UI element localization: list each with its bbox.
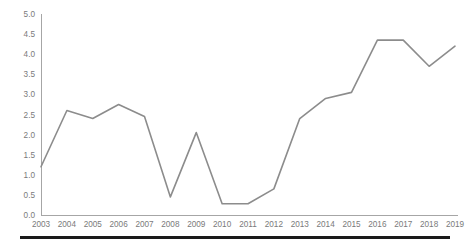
chart-canvas: 0.00.51.01.52.02.53.03.54.04.55.0 200320… [0, 0, 470, 248]
y-axis-tick-label: 0.5 [24, 191, 36, 200]
y-axis-tick-label: 1.0 [24, 171, 36, 180]
plot-area [41, 14, 455, 215]
x-axis-tick-label: 2009 [187, 220, 206, 229]
x-axis-tick-label: 2012 [265, 220, 284, 229]
y-axis-tick-label: 1.5 [24, 151, 36, 160]
x-axis-tick-label: 2019 [446, 220, 465, 229]
x-axis-tick-label: 2006 [110, 220, 129, 229]
x-axis-tick-label: 2016 [368, 220, 387, 229]
x-axis-tick-group: 2003200420052006200720082009201020112012… [32, 220, 465, 229]
y-axis-tick-label: 0.0 [24, 211, 36, 220]
x-axis-tick-label: 2003 [32, 220, 51, 229]
line-chart: 0.00.51.01.52.02.53.03.54.04.55.0 200320… [0, 0, 470, 248]
x-axis-tick-label: 2018 [420, 220, 439, 229]
x-axis-tick-label: 2004 [58, 220, 77, 229]
y-axis-tick-label: 2.5 [24, 111, 36, 120]
x-axis-tick-label: 2015 [342, 220, 361, 229]
y-axis-tick-label: 4.0 [24, 50, 36, 59]
x-axis-tick-label: 2017 [394, 220, 413, 229]
bottom-divider-rule [20, 236, 450, 239]
y-axis-tick-label: 5.0 [24, 10, 36, 19]
y-axis-tick-label: 4.5 [24, 30, 36, 39]
y-axis-tick-label: 3.0 [24, 90, 36, 99]
x-axis-tick-label: 2010 [213, 220, 232, 229]
x-axis-tick-label: 2008 [161, 220, 180, 229]
y-axis-tick-label: 2.0 [24, 131, 36, 140]
x-axis-tick-label: 2013 [291, 220, 310, 229]
x-axis-tick-label: 2014 [317, 220, 336, 229]
x-axis-tick-label: 2011 [239, 220, 257, 229]
y-axis-tick-label: 3.5 [24, 70, 36, 79]
x-axis-tick-label: 2005 [84, 220, 103, 229]
x-axis-tick-label: 2007 [135, 220, 154, 229]
